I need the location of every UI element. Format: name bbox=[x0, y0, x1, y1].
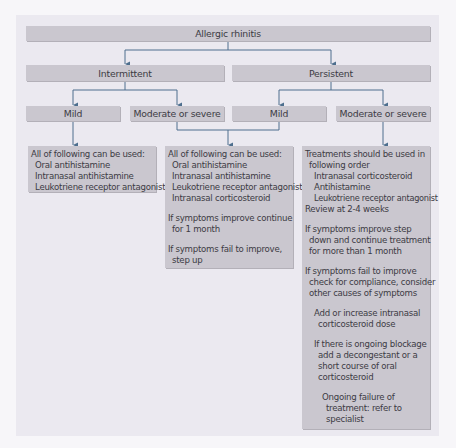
treatment-line: Review at 2-4 weeks bbox=[305, 204, 427, 215]
node-persistent-moderate-severe: Moderate or severe bbox=[336, 106, 430, 121]
treatment-line: If symptoms improve step bbox=[305, 224, 427, 235]
treatment-line: All of following can be used: bbox=[31, 149, 153, 160]
treatment-mild-intermittent: All of following can be used: Oral antih… bbox=[28, 146, 156, 192]
treatment-moderate-persistent: Treatments should be used in following o… bbox=[302, 146, 430, 429]
treatment-line: step up bbox=[168, 255, 290, 266]
treatment-line: Treatments should be used in bbox=[305, 149, 427, 160]
root-label: Allergic rhinitis bbox=[195, 28, 261, 39]
treatment-line: corticosteroid dose bbox=[305, 319, 427, 330]
treatment-line: Intranasal antihistamine bbox=[168, 171, 290, 182]
intermittent-label: Intermittent bbox=[98, 68, 151, 79]
treatment-line: If symptoms improve continue bbox=[168, 213, 290, 224]
treatment-line: Leukotriene receptor antagonist bbox=[168, 182, 290, 193]
treatment-line: Oral antihistamine bbox=[168, 160, 290, 171]
treatment-line: add a decongestant or a bbox=[305, 350, 427, 361]
treatment-line: specialist bbox=[305, 414, 427, 425]
treatment-line: for more than 1 month bbox=[305, 246, 427, 257]
treatment-line: other causes of symptoms bbox=[305, 288, 427, 299]
treatment-line: treatment: refer to bbox=[305, 403, 427, 414]
treatment-line: Antihistamine bbox=[305, 182, 427, 193]
treatment-line: If there is ongoing blockage bbox=[305, 339, 427, 350]
treatment-line: All of following can be used: bbox=[168, 149, 290, 160]
node-intermittent-moderate-severe: Moderate or severe bbox=[130, 106, 224, 121]
treatment-line: Add or increase intranasal bbox=[305, 308, 427, 319]
root-node-allergic-rhinitis: Allergic rhinitis bbox=[26, 26, 430, 41]
treatment-line: If symptoms fail to improve bbox=[305, 266, 427, 277]
treatment-line: Intranasal corticosteroid bbox=[305, 171, 427, 182]
treatment-line: Leukotriene receptor antagonist bbox=[31, 182, 153, 193]
treatment-line: If symptoms fail to improve, bbox=[168, 244, 290, 255]
node-intermittent: Intermittent bbox=[26, 65, 224, 81]
treatment-line: for 1 month bbox=[168, 224, 290, 235]
node-persistent-mild: Mild bbox=[232, 106, 326, 121]
treatment-line: short course of oral bbox=[305, 361, 427, 372]
treatment-moderate-intermittent-mild-persistent: All of following can be used: Oral antih… bbox=[165, 146, 293, 268]
node-persistent: Persistent bbox=[232, 65, 430, 81]
persistent-mild-label: Mild bbox=[270, 108, 288, 119]
intermittent-mild-label: Mild bbox=[64, 108, 82, 119]
treatment-line: down and continue treatment bbox=[305, 235, 427, 246]
node-intermittent-mild: Mild bbox=[26, 106, 120, 121]
treatment-line: Leukotriene receptor antagonist bbox=[305, 193, 427, 204]
intermittent-moderate-label: Moderate or severe bbox=[133, 108, 220, 119]
treatment-line: corticosteroid bbox=[305, 372, 427, 383]
treatment-line: Intranasal corticosteroid bbox=[168, 193, 290, 204]
persistent-moderate-label: Moderate or severe bbox=[339, 108, 426, 119]
treatment-line: Ongoing failure of bbox=[305, 392, 427, 403]
treatment-line: following order bbox=[305, 160, 427, 171]
treatment-line: check for compliance, consider bbox=[305, 277, 427, 288]
treatment-line: Intranasal antihistamine bbox=[31, 171, 153, 182]
persistent-label: Persistent bbox=[309, 68, 353, 79]
treatment-line: Oral antihistamine bbox=[31, 160, 153, 171]
